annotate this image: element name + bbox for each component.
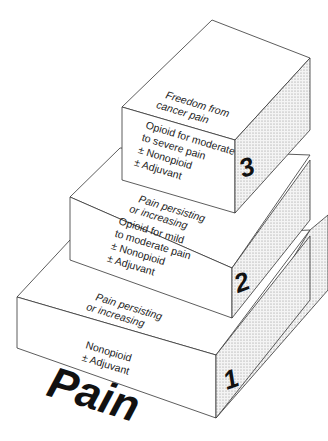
- analgesic-ladder-diagram: 1 Pain persisting or increasing Nonopioi…: [0, 0, 328, 441]
